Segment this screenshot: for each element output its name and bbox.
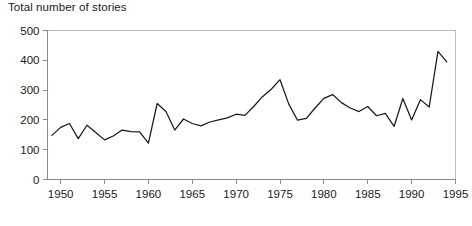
x-tick-label: 1980 (311, 188, 337, 200)
y-tick-label: 300 (20, 84, 39, 96)
chart-figure: Total number of stories 0100200300400500… (0, 0, 472, 226)
y-tick-label: 100 (20, 144, 39, 156)
x-tick-label: 1960 (136, 188, 162, 200)
x-axis-tick-labels: 1950195519601965197019751980198519901995 (48, 188, 468, 200)
x-tick-label: 1970 (223, 188, 249, 200)
x-tick-label: 1985 (355, 188, 381, 200)
y-axis-ticks (43, 31, 48, 180)
x-tick-label: 1975 (267, 188, 293, 200)
plot-frame (48, 31, 456, 180)
y-axis-tick-labels: 0100200300400500 (20, 25, 39, 186)
x-axis-ticks (61, 180, 456, 185)
x-tick-label: 1955 (92, 188, 118, 200)
plot-frame-path (48, 31, 456, 180)
line-chart-plot: 0100200300400500 19501955196019651970197… (0, 0, 472, 226)
x-tick-label: 1950 (48, 188, 74, 200)
x-tick-label: 1965 (179, 188, 205, 200)
series-line-total-stories (52, 51, 447, 143)
x-tick-label: 1990 (399, 188, 425, 200)
x-tick-label: 1995 (443, 188, 469, 200)
y-tick-label: 0 (33, 174, 39, 186)
y-tick-label: 500 (20, 25, 39, 37)
data-series-line (52, 51, 447, 143)
y-tick-label: 200 (20, 114, 39, 126)
y-tick-label: 400 (20, 54, 39, 66)
